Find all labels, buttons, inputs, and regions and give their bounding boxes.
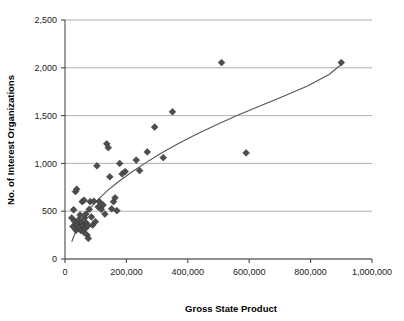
y-tick-label-2500: 2,500 bbox=[34, 15, 57, 25]
data-point bbox=[116, 160, 123, 167]
x-tick-label-400000: 400,000 bbox=[172, 267, 205, 277]
y-tick-label-500: 500 bbox=[42, 206, 57, 216]
data-point bbox=[169, 108, 176, 115]
x-tick-label-1000000: 1,000,000 bbox=[352, 267, 392, 277]
data-point bbox=[106, 173, 113, 180]
trend-line bbox=[72, 64, 342, 241]
scatter-chart: 05001,0001,5002,0002,500 0200,000400,000… bbox=[0, 0, 404, 321]
x-tick-label-200000: 200,000 bbox=[110, 267, 143, 277]
y-tick-label-1500: 1,500 bbox=[34, 111, 57, 121]
data-point bbox=[144, 149, 151, 156]
data-point bbox=[243, 149, 250, 156]
data-points-group bbox=[68, 59, 344, 242]
axis-lines-group bbox=[65, 20, 372, 259]
plot-canvas: 05001,0001,5002,0002,500 0200,000400,000… bbox=[0, 0, 404, 321]
y-tick-label-0: 0 bbox=[52, 254, 57, 264]
data-point bbox=[338, 59, 345, 66]
data-point bbox=[133, 157, 140, 164]
data-point bbox=[160, 154, 167, 161]
y-tick-labels-group: 05001,0001,5002,0002,500 bbox=[34, 15, 57, 264]
x-tick-label-0: 0 bbox=[62, 267, 67, 277]
data-point bbox=[151, 124, 158, 131]
x-tick-labels-group: 0200,000400,000600,000800,0001,000,000 bbox=[62, 267, 392, 277]
y-tick-label-2000: 2,000 bbox=[34, 63, 57, 73]
x-axis-title: Gross State Product bbox=[185, 303, 278, 314]
y-tick-label-1000: 1,000 bbox=[34, 159, 57, 169]
trendline-group bbox=[72, 64, 342, 241]
data-point bbox=[218, 59, 225, 66]
data-point bbox=[70, 206, 77, 213]
y-axis-title: No. of Interest Organizations bbox=[5, 75, 16, 205]
gridlines-group bbox=[65, 20, 372, 259]
x-tick-label-800000: 800,000 bbox=[294, 267, 327, 277]
x-tick-label-600000: 600,000 bbox=[233, 267, 266, 277]
